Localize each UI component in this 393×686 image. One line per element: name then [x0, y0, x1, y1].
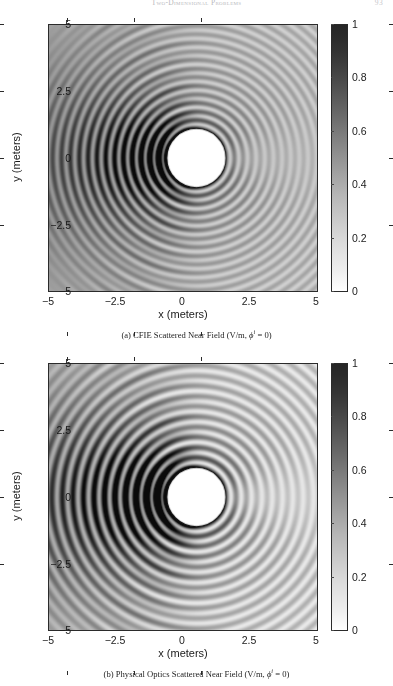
cbar-label-b-4: 0.2 [352, 571, 367, 583]
book-page: Two-Dimensional Problems 93 5 2.5 0 −2.5… [0, 0, 393, 686]
yaxis-title-a: y (meters) [10, 117, 22, 197]
running-header-title: Two-Dimensional Problems [0, 0, 393, 7]
cbar-label-b-0: 1 [352, 357, 358, 369]
figure-caption-b: (b) Physical Optics Scattered Near Field… [0, 667, 393, 679]
xtick-label-b-4: 5 [296, 634, 336, 646]
ytick-b-1r [389, 430, 393, 431]
ytick-label-a-3: −2.5 [50, 219, 71, 231]
yaxis-title-b: y (meters) [10, 456, 22, 536]
running-header: Two-Dimensional Problems 93 [0, 0, 393, 10]
xtick-label-a-2: 0 [162, 295, 202, 307]
page-number: 93 [375, 0, 383, 7]
cbar-tick-a-5 [331, 291, 334, 292]
ytick-b-3 [0, 564, 4, 565]
cbar-label-b-5: 0 [352, 624, 358, 636]
xaxis-title-b: x (meters) [48, 647, 318, 659]
caption-a-prefix: (a) [121, 330, 131, 340]
ytick-label-b-3: −2.5 [50, 558, 71, 570]
xtick-label-a-0: −5 [28, 295, 68, 307]
xtick-label-b-3: 2.5 [229, 634, 269, 646]
cbar-label-a-0: 1 [352, 18, 358, 30]
cbar-tick-b-5 [331, 630, 334, 631]
xtick-label-b-1: −2.5 [95, 634, 135, 646]
xtick-b-3t [201, 357, 202, 361]
ytick-b-2r [389, 497, 393, 498]
cbar-tick-b-4 [331, 577, 334, 578]
xtick-b-2t [134, 357, 135, 361]
ytick-b-0 [0, 363, 4, 364]
xtick-a-2t [134, 18, 135, 22]
figure-caption-a: (a) CFIE Scattered Near Field (V/m, ϕi =… [0, 328, 393, 340]
caption-a-suffix: = 0) [257, 330, 271, 340]
ytick-b-3r [389, 564, 393, 565]
caption-b-prefix: (b) [104, 669, 114, 679]
cbar-label-a-5: 0 [352, 285, 358, 297]
ytick-a-1r [389, 91, 393, 92]
figure-physical-optics: 5 2.5 0 −2.5 −5 −5 −2.5 0 2.5 5 x (meter… [0, 357, 393, 675]
caption-b-superscript: i [271, 667, 273, 674]
plot-area-physical-optics [48, 363, 318, 631]
ytick-label-a-2: 0 [65, 152, 71, 164]
ytick-a-3r [389, 225, 393, 226]
cbar-tick-a-3 [331, 184, 334, 185]
colorbar-cfie [331, 24, 348, 292]
ytick-a-2 [0, 158, 4, 159]
cbar-label-b-1: 0.8 [352, 410, 367, 422]
ytick-a-3 [0, 225, 4, 226]
cbar-tick-b-2 [331, 470, 334, 471]
cbar-label-a-3: 0.4 [352, 178, 367, 190]
cbar-tick-b-1 [331, 416, 334, 417]
ytick-b-2 [0, 497, 4, 498]
near-field-heatmap-cfie [49, 25, 317, 291]
xtick-label-b-0: −5 [28, 634, 68, 646]
ytick-b-0r [389, 363, 393, 364]
figure-cfie: 5 2.5 0 −2.5 −5 −5 −2.5 0 2.5 5 x (meter… [0, 18, 393, 336]
cbar-tick-a-4 [331, 238, 334, 239]
caption-b-text: Physical Optics Scattered Near Field (V/… [116, 669, 265, 679]
xtick-b-1t [67, 357, 68, 361]
cbar-label-b-2: 0.6 [352, 464, 367, 476]
xtick-a-3t [201, 18, 202, 22]
ytick-b-1 [0, 430, 4, 431]
xtick-a-1t [67, 18, 68, 22]
cbar-label-b-3: 0.4 [352, 517, 367, 529]
xtick-label-a-1: −2.5 [95, 295, 135, 307]
xtick-label-b-2: 0 [162, 634, 202, 646]
plot-area-cfie [48, 24, 318, 292]
caption-a-text: CFIE Scattered Near Field (V/m, [133, 330, 247, 340]
ytick-a-1 [0, 91, 4, 92]
cbar-tick-a-2 [331, 131, 334, 132]
cbar-tick-b-0 [331, 363, 334, 364]
xtick-label-a-4: 5 [296, 295, 336, 307]
cbar-label-a-4: 0.2 [352, 232, 367, 244]
cbar-tick-b-3 [331, 523, 334, 524]
caption-a-superscript: i [254, 328, 256, 335]
ytick-a-0 [0, 24, 4, 25]
xtick-label-a-3: 2.5 [229, 295, 269, 307]
cbar-label-a-1: 0.8 [352, 71, 367, 83]
caption-b-suffix: = 0) [275, 669, 289, 679]
ytick-label-a-1: 2.5 [56, 85, 71, 97]
cbar-label-a-2: 0.6 [352, 125, 367, 137]
ytick-a-2r [389, 158, 393, 159]
cbar-tick-a-1 [331, 77, 334, 78]
ytick-a-0r [389, 24, 393, 25]
ytick-label-b-1: 2.5 [56, 424, 71, 436]
near-field-heatmap-physical-optics [49, 364, 317, 630]
ytick-label-b-2: 0 [65, 491, 71, 503]
cbar-tick-a-0 [331, 24, 334, 25]
xaxis-title-a: x (meters) [48, 308, 318, 320]
colorbar-physical-optics [331, 363, 348, 631]
